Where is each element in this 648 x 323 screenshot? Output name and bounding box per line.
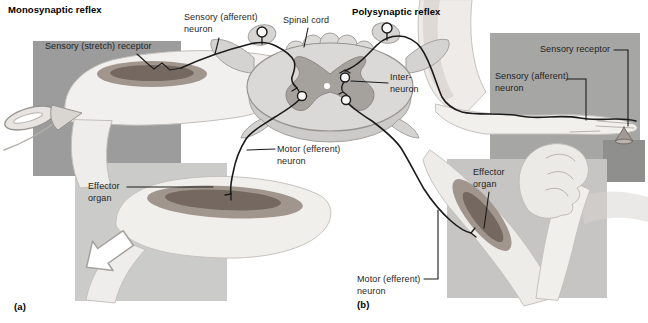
label-motor-efferent-b: Motor (efferent) neuron — [357, 273, 420, 297]
label-line: Inter- — [390, 71, 419, 83]
motor-cell-body-a — [298, 92, 307, 101]
label-line: neuron — [357, 285, 420, 297]
connector-motor-a — [247, 149, 275, 150]
ventral-root-left — [241, 119, 268, 138]
label-interneuron: Inter- neuron — [390, 71, 419, 95]
panel-a-title: Monosynaptic reflex — [8, 4, 102, 16]
label-line: Motor (efferent) — [357, 273, 420, 285]
label-motor-efferent-a: Motor (efferent) neuron — [277, 143, 340, 167]
label-spinal-cord: Spinal cord — [283, 14, 329, 26]
label-line: Effector — [473, 166, 505, 178]
label-line: neuron — [277, 155, 340, 167]
label-line: neuron — [495, 82, 569, 94]
ventral-root-right — [392, 119, 419, 138]
panel-b-tag: (b) — [357, 299, 369, 311]
label-effector-organ-b: Effector organ — [473, 166, 505, 190]
interneuron-cell-body — [341, 73, 350, 82]
label-effector-organ-a: Effector organ — [88, 180, 120, 204]
label-sensory-afferent-b: Sensory (afferent) neuron — [495, 70, 569, 94]
label-sensory-receptor-b: Sensory receptor — [540, 43, 610, 55]
label-line: organ — [473, 178, 505, 190]
label-sensory-afferent-a: Sensory (afferent) neuron — [184, 11, 258, 35]
label-line: neuron — [390, 83, 419, 95]
label-line: Effector — [88, 180, 120, 192]
label-line: Sensory (afferent) — [495, 70, 569, 82]
reflex-arc-figure: Monosynaptic reflex Polysynaptic reflex … — [0, 0, 648, 323]
panel-b-corner-square — [603, 140, 645, 182]
ganglion-cell-body-b — [382, 23, 392, 33]
panel-a-tag: (a) — [14, 301, 26, 313]
ganglion-cell-body-a — [257, 27, 267, 37]
central-canal — [324, 83, 330, 89]
label-line: neuron — [184, 23, 258, 35]
ghost-forearm — [580, 192, 648, 224]
label-stretch-receptor: Sensory (stretch) receptor — [45, 40, 152, 52]
label-line: organ — [88, 192, 120, 204]
label-line: Sensory (afferent) — [184, 11, 258, 23]
lower-leg-hanging — [71, 120, 112, 188]
connector-motor-b — [424, 210, 438, 279]
panel-b-title: Polysynaptic reflex — [352, 6, 441, 18]
label-line: Motor (efferent) — [277, 143, 340, 155]
motor-cell-body-b — [342, 96, 351, 105]
